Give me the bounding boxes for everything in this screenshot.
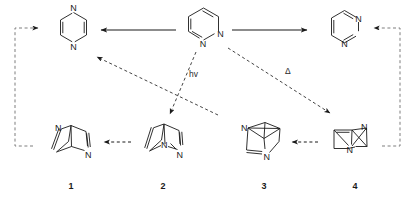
atom-label-n: N bbox=[85, 150, 92, 160]
structure-label-3: 3 bbox=[254, 181, 274, 191]
arrow-structure-2-to-pyrazine bbox=[97, 57, 218, 115]
condition-label-thermal: Δ bbox=[285, 66, 291, 76]
molecule-pyrazine bbox=[61, 13, 87, 42]
atom-label-n: N bbox=[341, 39, 348, 49]
atom-label-n: N bbox=[55, 123, 62, 133]
structure-label-2: 2 bbox=[153, 181, 173, 191]
atom-label-n: N bbox=[200, 39, 207, 49]
arrow-loop-structure-1-to-pyrazine bbox=[15, 28, 38, 146]
arrow-delta-to-structure-4 bbox=[228, 48, 330, 113]
molecule-diazabenzvalene-a bbox=[247, 123, 281, 155]
reaction-scheme-diagram: N N N N N N bbox=[0, 0, 417, 207]
atom-label-n: N bbox=[361, 122, 368, 132]
scheme-canvas: N N N N N N bbox=[0, 0, 417, 207]
atom-label-n: N bbox=[264, 152, 271, 162]
atom-label-n: N bbox=[70, 3, 77, 13]
atom-label-n: N bbox=[177, 150, 184, 160]
atom-label-n: N bbox=[347, 145, 354, 155]
condition-label-photochemical: hv bbox=[189, 69, 198, 79]
atom-label-n: N bbox=[355, 14, 362, 24]
arrow-hv-to-structure-2 bbox=[170, 52, 196, 114]
atom-label-n: N bbox=[241, 123, 248, 133]
atom-label-n: N bbox=[70, 42, 77, 52]
molecule-pyridazine bbox=[189, 8, 219, 40]
atom-label-n: N bbox=[161, 140, 168, 150]
structure-label-4: 4 bbox=[345, 181, 365, 191]
structure-label-1: 1 bbox=[61, 181, 81, 191]
atom-label-n: N bbox=[217, 29, 224, 39]
arrow-loop-structure-4-to-pyrimidine bbox=[374, 28, 400, 146]
